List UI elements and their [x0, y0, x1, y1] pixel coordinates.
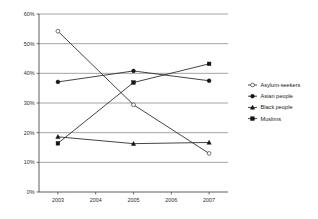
legend: Asylum-seekersAsian peopleBlack peopleMu… [248, 82, 300, 122]
legend-label-2: Black people [261, 104, 293, 110]
legend-item-asian-people[interactable]: Asian people [248, 93, 293, 99]
data-point-3-2 [207, 62, 211, 66]
y-tick-labels-group: 0%10%20%30%40%50%60% [24, 11, 35, 195]
legend-item-asylum-seekers[interactable]: Asylum-seekers [248, 82, 300, 88]
chart-canvas: 0%10%20%30%40%50%60% 2003200420052006200… [0, 0, 318, 219]
series-line-0 [58, 31, 209, 153]
x-tick-label-2007: 2007 [203, 197, 215, 203]
x-tick-labels-group: 20032004200520062007 [52, 197, 215, 203]
gridlines-group [39, 14, 228, 162]
data-point-0-2 [207, 152, 211, 156]
x-tick-label-2003: 2003 [52, 197, 64, 203]
y-tick-label-50: 50% [24, 41, 35, 47]
legend-item-black-people[interactable]: Black people [248, 104, 293, 110]
y-tick-label-10: 10% [24, 159, 35, 165]
series-asylum-seekers [56, 29, 211, 155]
legend-marker-0 [251, 83, 255, 87]
data-point-3-0 [56, 142, 60, 146]
legend-label-0: Asylum-seekers [261, 82, 301, 88]
y-tick-label-30: 30% [24, 100, 35, 106]
legend-item-muslims[interactable]: Muslims [248, 116, 281, 122]
legend-marker-3 [251, 117, 255, 121]
x-tick-label-2004: 2004 [90, 197, 102, 203]
series-group [56, 29, 211, 155]
legend-marker-1 [251, 94, 255, 98]
data-point-1-2 [207, 79, 211, 83]
y-tick-label-0: 0% [27, 189, 35, 195]
line-chart: 0%10%20%30%40%50%60% 2003200420052006200… [0, 0, 318, 219]
x-tick-label-2005: 2005 [128, 197, 140, 203]
data-point-0-0 [56, 29, 60, 33]
y-tick-label-60: 60% [24, 11, 35, 17]
data-point-1-0 [56, 80, 60, 84]
x-tick-label-2006: 2006 [165, 197, 177, 203]
data-point-0-1 [132, 103, 136, 107]
legend-label-1: Asian people [261, 93, 293, 99]
data-point-1-1 [132, 69, 136, 73]
data-point-3-1 [132, 81, 136, 85]
y-axis-group [37, 14, 40, 192]
x-axis-group [39, 192, 228, 195]
y-tick-label-20: 20% [24, 130, 35, 136]
y-tick-label-40: 40% [24, 70, 35, 76]
legend-label-3: Muslims [261, 116, 282, 122]
